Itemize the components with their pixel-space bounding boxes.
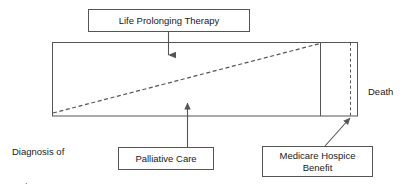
diagnosis-line2: serious xyxy=(12,181,107,185)
diagnosis-line1: Diagnosis of xyxy=(12,146,107,158)
main-continuum-rectangle xyxy=(53,43,358,117)
life-prolonging-therapy-label: Life Prolonging Therapy xyxy=(88,9,250,32)
palliative-care-growth-line xyxy=(53,44,320,114)
diagnosis-label: Diagnosis of serious illness xyxy=(12,123,107,184)
death-label: Death xyxy=(368,86,410,98)
arrow-medicare-hospice-benefit xyxy=(325,118,350,146)
medicare-hospice-benefit-line2: Benefit xyxy=(279,162,355,174)
medicare-hospice-benefit-label: Medicare Hospice Benefit xyxy=(262,146,373,177)
diagram-canvas: Life Prolonging Therapy Palliative Care … xyxy=(0,0,411,184)
medicare-hospice-benefit-line1: Medicare Hospice xyxy=(279,150,355,162)
palliative-care-label: Palliative Care xyxy=(118,147,214,170)
